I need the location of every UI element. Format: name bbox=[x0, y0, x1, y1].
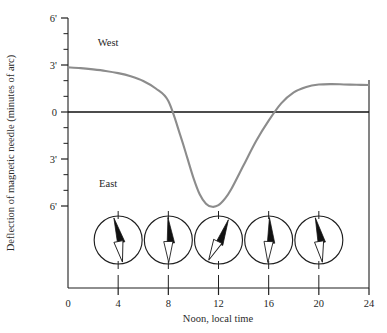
y-axis-major-ticks bbox=[61, 18, 68, 206]
x-axis-tick-label: 20 bbox=[314, 298, 325, 309]
x-axis-tick-label: 12 bbox=[213, 298, 224, 309]
compass-rose-12h bbox=[195, 211, 243, 269]
compass-rose-8h bbox=[144, 211, 192, 269]
x-axis-major-ticks bbox=[118, 288, 369, 295]
y-axis-tick-label: 3' bbox=[50, 154, 57, 165]
y-axis-tick-label: 6' bbox=[50, 201, 57, 212]
compass-rose-row bbox=[94, 211, 343, 269]
chart-canvas: 6'3'03'6' 04812162024 WestEast Noon, loc… bbox=[0, 0, 387, 333]
x-axis-tick-label: 16 bbox=[263, 298, 274, 309]
y-axis-tick-label: 0 bbox=[52, 107, 57, 118]
y-axis-tick-label: 6' bbox=[50, 13, 57, 24]
compass-rose-20h bbox=[295, 211, 343, 269]
x-axis-title: Noon, local time bbox=[183, 313, 254, 324]
compass-row-ticks bbox=[118, 275, 319, 288]
y-axis-title: Deflection of magnetic needle (minutes o… bbox=[5, 54, 17, 251]
compass-rose-4h bbox=[94, 211, 142, 269]
compass-rose-16h bbox=[245, 211, 293, 269]
x-axis-tick-label: 24 bbox=[364, 298, 375, 309]
x-axis-tick-label: 8 bbox=[166, 298, 171, 309]
x-axis-tick-label: 4 bbox=[116, 298, 122, 309]
magnetic-declination-figure: 6'3'03'6' 04812162024 WestEast Noon, loc… bbox=[0, 0, 387, 333]
x-axis-tick-label: 0 bbox=[65, 298, 70, 309]
west-label: West bbox=[98, 37, 119, 48]
x-axis-tick-labels: 04812162024 bbox=[65, 298, 375, 309]
y-axis-tick-labels: 6'3'03'6' bbox=[50, 13, 57, 212]
east-label: East bbox=[99, 178, 117, 189]
y-axis-tick-label: 3' bbox=[50, 60, 57, 71]
